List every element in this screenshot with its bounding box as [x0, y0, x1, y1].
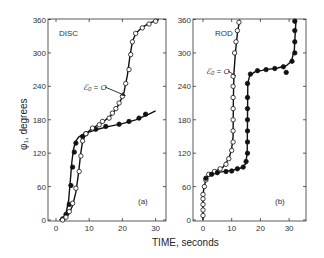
x-tick-label: 10 [85, 224, 94, 233]
x-axis-title: TIME, seconds [152, 237, 219, 248]
open-data-point [140, 26, 144, 30]
open-data-point [201, 197, 205, 201]
y-tick-label: 360 [178, 16, 192, 25]
filled-data-point [204, 176, 208, 180]
panel-b-label: (b) [275, 197, 285, 206]
filled-data-point [293, 19, 297, 23]
open-data-point [231, 118, 235, 122]
open-data-point [67, 209, 71, 213]
open-data-point [231, 129, 235, 133]
open-data-point [147, 22, 151, 26]
open-data-point [218, 167, 222, 171]
series-curve [206, 20, 296, 179]
panel-a-points [60, 19, 157, 222]
filled-data-point [70, 165, 74, 169]
panel-b-y-ticks: 060120180240300360 [178, 16, 306, 226]
rod-label: ROD [215, 29, 233, 38]
filled-data-point [74, 141, 78, 145]
filled-data-point [245, 106, 249, 110]
panel-a-frame [48, 19, 166, 221]
open-data-point [234, 40, 238, 44]
open-data-point [201, 208, 205, 212]
filled-data-point [293, 40, 297, 44]
x-tick-label: 20 [256, 224, 265, 233]
open-data-point [231, 95, 235, 99]
filled-data-point [244, 159, 248, 163]
open-data-point [231, 84, 235, 88]
open-data-point [107, 116, 111, 120]
filled-data-point [127, 119, 131, 123]
y-tick-label: 120 [33, 149, 47, 158]
y-tick-label: 0 [187, 216, 192, 225]
x-tick-label: 20 [118, 224, 127, 233]
open-data-point [130, 40, 134, 44]
open-data-point [235, 28, 239, 32]
open-data-point [202, 184, 206, 188]
filled-data-point [290, 59, 294, 63]
y-tick-label: 180 [178, 116, 192, 125]
y-tick-label: 360 [33, 16, 47, 25]
open-data-point [64, 215, 68, 219]
open-data-point [201, 202, 205, 206]
open-data-point [201, 213, 205, 217]
open-data-point [224, 162, 228, 166]
open-data-point [201, 192, 205, 196]
filled-data-point [245, 129, 249, 133]
open-data-point [231, 140, 235, 144]
open-data-point [114, 106, 118, 110]
open-data-point [74, 186, 78, 190]
filled-data-point [241, 165, 245, 169]
filled-data-point [273, 66, 277, 70]
open-data-point [79, 154, 83, 158]
filled-data-point [230, 169, 234, 173]
filled-data-point [248, 72, 252, 76]
filled-data-point [293, 51, 297, 55]
filled-data-point [245, 95, 249, 99]
filled-data-point [215, 171, 219, 175]
open-data-point [231, 106, 235, 110]
panel-disc: 060120180240300360 0102030 DISC (a) ℰ₀ =… [33, 16, 166, 234]
open-data-point [127, 67, 131, 71]
open-data-point [124, 81, 128, 85]
open-data-point [153, 19, 157, 23]
y-tick-label: 300 [178, 49, 192, 58]
open-data-point [117, 101, 121, 105]
filled-data-point [72, 150, 76, 154]
open-data-point [230, 148, 234, 152]
open-data-point [134, 31, 138, 35]
x-tick-label: 30 [285, 224, 294, 233]
open-data-point [129, 52, 133, 56]
filled-data-point [235, 167, 239, 171]
filled-data-point [137, 116, 141, 120]
open-data-point [237, 20, 241, 24]
filled-data-point [104, 124, 108, 128]
e0-annotation-b: ℰ₀ = O [206, 67, 230, 76]
x-tick-label: 0 [54, 224, 59, 233]
open-data-point [77, 169, 81, 173]
y-tick-label: 300 [33, 49, 47, 58]
y-tick-label: 240 [178, 82, 192, 91]
open-data-point [227, 157, 231, 161]
x-tick-label: 0 [201, 224, 206, 233]
filled-data-point [224, 169, 228, 173]
filled-data-point [245, 151, 249, 155]
y-tick-label: 60 [37, 183, 46, 192]
filled-data-point [117, 122, 121, 126]
figure: 060120180240300360 0102030 DISC (a) ℰ₀ =… [0, 0, 324, 258]
y-tick-label: 0 [42, 216, 47, 225]
panel-a-label: (a) [138, 197, 148, 206]
y-tick-label: 180 [33, 116, 47, 125]
panel-b-points [201, 19, 297, 218]
open-data-point [70, 201, 74, 205]
filled-data-point [209, 172, 213, 176]
y-tick-label: 120 [178, 149, 192, 158]
x-tick-label: 10 [227, 224, 236, 233]
y-tick-label: 60 [182, 183, 191, 192]
open-data-point [80, 139, 84, 143]
x-tick-label: 30 [151, 224, 160, 233]
open-data-point [100, 119, 104, 123]
filled-data-point [245, 81, 249, 85]
disc-label: DISC [59, 29, 78, 38]
filled-data-point [143, 112, 147, 116]
e0-annotation-a: ℰ₀ = O [83, 83, 107, 92]
